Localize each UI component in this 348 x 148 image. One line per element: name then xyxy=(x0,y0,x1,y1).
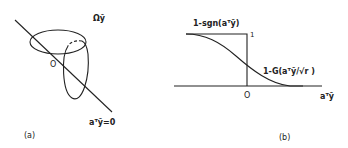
caption-a: (a) xyxy=(24,131,35,140)
panel-a xyxy=(15,20,112,112)
origin-label-a: O xyxy=(50,60,56,69)
smooth-sigmoid-curve xyxy=(186,34,303,86)
figure: Ωỹ O aᵀỹ=0 (a) 1-sgn(aᵀỹ) 1 1-G(aᵀỹ/√r )… xyxy=(0,0,348,148)
smooth-curve-label: 1-G(aᵀỹ/√r ) xyxy=(263,67,315,76)
hidden-edge-dashed xyxy=(68,41,82,46)
hyperplane-label: aᵀỹ=0 xyxy=(89,118,116,127)
origin-label-b: O xyxy=(244,91,250,100)
panel-b xyxy=(174,34,322,86)
x-axis-label: aᵀỹ xyxy=(320,92,335,101)
caption-b: (b) xyxy=(279,133,290,142)
region-label: Ωỹ xyxy=(93,14,106,23)
step-label: 1-sgn(aᵀỹ) xyxy=(193,19,239,28)
step-top-value: 1 xyxy=(250,31,254,39)
